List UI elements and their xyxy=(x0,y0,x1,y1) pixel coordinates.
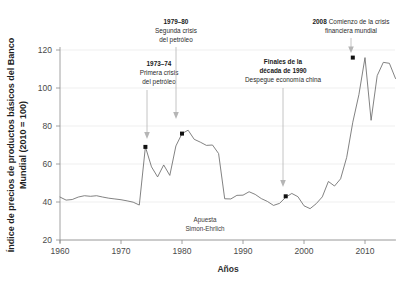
annotation-financial-crisis-2008-line2: financiera mundial xyxy=(325,27,377,34)
annotation-financial-crisis-2008: 2008Comienzo de la crisis financiera mun… xyxy=(313,18,390,53)
data-point-marker xyxy=(284,194,288,198)
y-tick-20: 20 xyxy=(43,235,53,245)
annotation-first-oil-crisis-arrowhead xyxy=(144,132,150,139)
annotation-china-takeoff-title-line1: Finales de la xyxy=(264,58,303,65)
commodity-price-index-chart: 120 100 80 60 40 20 1960 1970 1980 1990 … xyxy=(0,0,408,289)
y-axis-title-line2: Mundial (2010 = 100) xyxy=(18,101,28,189)
annotation-first-oil-crisis: 1973–74 Primera crisis del petróleo xyxy=(140,60,179,139)
data-point-marker xyxy=(143,145,147,149)
data-point-marker xyxy=(180,132,184,136)
annotation-first-oil-crisis-line2: Primera crisis xyxy=(140,69,179,76)
chart-figure: 120 100 80 60 40 20 1960 1970 1980 1990 … xyxy=(0,0,408,289)
annotation-china-takeoff-title-line2: década de 1990 xyxy=(259,67,307,74)
annotation-china-takeoff-arrowhead xyxy=(280,180,286,187)
annotation-second-oil-crisis-line2: Segunda crisis xyxy=(155,27,197,35)
annotation-financial-crisis-2008-rest: Comienzo de la crisis xyxy=(329,18,390,25)
annotation-second-oil-crisis-arrowhead xyxy=(173,112,179,119)
annotation-second-oil-crisis-line3: del petróleo xyxy=(159,36,193,44)
x-tick-1960: 1960 xyxy=(51,246,70,256)
annotation-financial-crisis-2008-year: 2008 xyxy=(313,18,328,25)
annotation-first-oil-crisis-line3: del petróleo xyxy=(142,78,176,86)
annotation-simon-ehrlich-bet: Apuesta Simon-Ehrlich xyxy=(185,216,225,232)
x-tick-2000: 2000 xyxy=(295,246,314,256)
x-tick-2010: 2010 xyxy=(356,246,375,256)
y-axis-title-line1: Índice de precios de productos básicos d… xyxy=(6,37,16,252)
y-tick-120: 120 xyxy=(38,45,52,55)
axes xyxy=(56,47,396,244)
data-point-marker xyxy=(351,56,355,60)
x-tick-1980: 1980 xyxy=(173,246,192,256)
x-tick-1990: 1990 xyxy=(234,246,253,256)
annotation-china-takeoff: Finales de la década de 1990 Despegue ec… xyxy=(245,58,321,187)
annotation-financial-crisis-2008-line1: 2008Comienzo de la crisis xyxy=(313,18,390,25)
annotation-simon-ehrlich-bet-line1: Apuesta xyxy=(193,216,217,224)
x-axis-tick-labels: 1960 1970 1980 1990 2000 2010 xyxy=(51,246,375,256)
x-tick-1970: 1970 xyxy=(112,246,131,256)
y-tick-60: 60 xyxy=(43,159,53,169)
x-axis-title: Años xyxy=(217,264,239,274)
price-index-line xyxy=(60,58,396,209)
gridlines xyxy=(60,50,395,240)
annotation-china-takeoff-line3: Despegue economía china xyxy=(245,76,321,84)
y-axis-title: Índice de precios de productos básicos d… xyxy=(6,37,28,252)
y-axis-tick-labels: 120 100 80 60 40 20 xyxy=(38,45,52,245)
y-tick-80: 80 xyxy=(43,121,53,131)
annotation-second-oil-crisis-title: 1979–80 xyxy=(164,18,189,25)
annotation-simon-ehrlich-bet-line2: Simon-Ehrlich xyxy=(185,225,225,232)
y-tick-100: 100 xyxy=(38,83,52,93)
annotation-first-oil-crisis-title: 1973–74 xyxy=(147,60,172,67)
y-tick-40: 40 xyxy=(43,197,53,207)
